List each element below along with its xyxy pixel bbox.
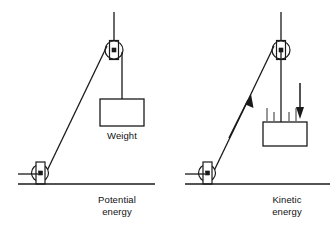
caption-left-line1: Potential [98,194,136,205]
arrow-up-right [229,94,254,138]
pulley-top-left-axle [112,48,116,52]
pulley-bottom-right [199,162,216,184]
caption-right-line1: Kinetic [272,194,301,205]
arrow-down-right [296,83,304,119]
rope-diagonal-left [45,46,107,175]
pulley-bottom-left [32,162,49,184]
pulley-top-right-axle [279,48,283,52]
caption-right-line2: energy [272,206,302,217]
panel-potential-energy: Weight Potential energy [18,12,155,217]
weight-block-right [263,122,307,146]
panel-kinetic-energy: Kinetic energy [185,12,330,217]
pulley-bottom-left-axle [39,171,43,175]
pulley-bottom-right-axle [206,171,210,175]
energy-diagram-figure: Weight Potential energy [0,0,335,230]
weight-block-left [100,99,144,126]
caption-left-line2: energy [102,206,132,217]
pulley-top-left [105,41,123,60]
diagram-canvas: Weight Potential energy [0,0,335,230]
weight-label-left: Weight [107,130,137,141]
